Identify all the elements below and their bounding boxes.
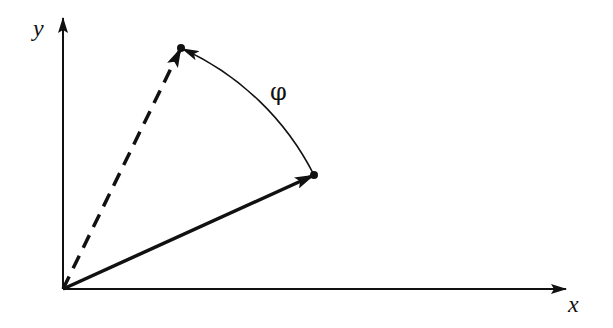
rotation-arc [183,49,314,175]
y-axis-label: y [31,15,44,41]
angle-phi-label: φ [270,78,287,106]
original-vector [63,176,312,289]
vector-rotation-diagram: x y φ [0,0,613,328]
rotated-vector-tip-dot [177,44,185,52]
x-axis-label: x [567,291,579,317]
rotated-vector [63,50,180,289]
